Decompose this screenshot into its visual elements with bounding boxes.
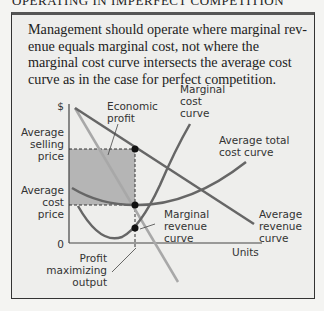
atc-point — [132, 202, 139, 209]
svg-text:price: price — [38, 150, 64, 162]
mc-mr-intersection — [132, 225, 139, 232]
svg-text:price: price — [38, 208, 64, 220]
svg-text:curve: curve — [259, 232, 288, 244]
svg-text:Economic: Economic — [107, 100, 158, 112]
y-axis-label: $ — [57, 100, 64, 112]
svg-text:Average total: Average total — [219, 134, 289, 146]
svg-text:curve: curve — [180, 107, 209, 119]
svg-text:profit: profit — [107, 112, 135, 124]
origin-label: 0 — [57, 238, 64, 250]
svg-text:revenue: revenue — [164, 220, 207, 232]
svg-text:cost: cost — [42, 196, 64, 208]
economic-profit-area — [69, 149, 135, 205]
economic-profit-label: Economic profit — [107, 100, 158, 124]
svg-text:cost: cost — [180, 95, 202, 107]
svg-text:Average: Average — [21, 184, 64, 196]
economics-diagram: $ 0 Units Average selling price Average … — [0, 0, 324, 311]
average-cost-price-label: Average cost price — [21, 184, 64, 220]
svg-text:output: output — [72, 276, 107, 288]
svg-text:selling: selling — [30, 138, 64, 150]
svg-text:Average: Average — [21, 126, 64, 138]
svg-text:maximizing: maximizing — [46, 264, 107, 276]
marginal-cost-curve-label: Marginal cost curve — [180, 83, 225, 119]
svg-text:Marginal: Marginal — [180, 83, 225, 95]
output-leader — [112, 248, 136, 272]
average-selling-price-label: Average selling price — [21, 126, 64, 162]
svg-text:Profit: Profit — [80, 252, 107, 264]
profit-maximizing-output-label: Profit maximizing output — [46, 252, 107, 288]
marginal-revenue-curve-label: Marginal revenue curve — [164, 208, 209, 244]
average-total-cost-curve-label: Average total cost curve — [219, 134, 289, 158]
ar-point — [132, 146, 139, 153]
svg-text:revenue: revenue — [259, 220, 302, 232]
average-revenue-curve-label: Average revenue curve — [259, 208, 302, 244]
svg-text:curve: curve — [164, 232, 193, 244]
svg-text:Marginal: Marginal — [164, 208, 209, 220]
svg-text:cost curve: cost curve — [219, 146, 274, 158]
x-axis-label: Units — [232, 246, 259, 258]
svg-text:Average: Average — [259, 208, 302, 220]
